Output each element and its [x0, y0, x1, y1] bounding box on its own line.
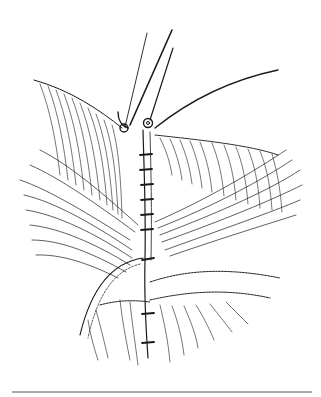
stitch-marks — [140, 154, 154, 343]
upper-tissue-edge — [34, 80, 122, 128]
instrument-ring-right — [144, 119, 153, 128]
needle-thread — [155, 70, 278, 128]
fan-hatching — [20, 150, 302, 278]
upper-left-hatching — [40, 84, 122, 218]
surgical-suture-illustration — [0, 0, 321, 397]
lower-left-fold — [80, 258, 143, 335]
illustration-svg — [0, 0, 321, 397]
lower-wavy-suture — [150, 292, 270, 300]
central-suture-line — [143, 130, 148, 358]
upper-right-hatching — [160, 138, 282, 212]
right-tissue-edge — [155, 135, 278, 155]
upper-wavy-suture — [150, 271, 280, 282]
lower-hatching — [88, 300, 248, 365]
instrument-right-arm — [150, 48, 173, 120]
